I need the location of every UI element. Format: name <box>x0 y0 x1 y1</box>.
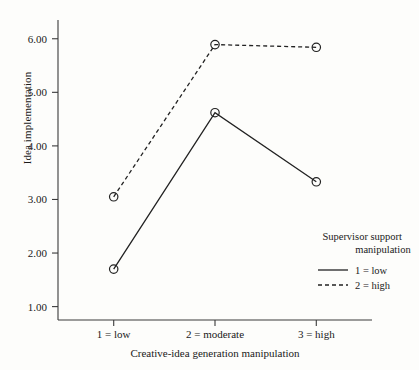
y-tick-label: 6.00 <box>28 33 48 45</box>
y-tick-label: 4.00 <box>28 140 48 152</box>
series-layer <box>110 40 321 273</box>
legend-title-line-2: manipulation <box>355 244 411 255</box>
legend-label-series-2-high: 2 = high <box>355 280 391 291</box>
x-tick-label: 3 = high <box>298 328 335 340</box>
y-tick-label: 1.00 <box>28 301 48 313</box>
y-tick-label: 2.00 <box>28 247 48 259</box>
chart-figure: Idea implementation Creative-idea genera… <box>0 0 419 370</box>
series-line-1 <box>114 113 317 269</box>
chart-legend: Supervisor support manipulation 1 = low … <box>318 231 411 291</box>
legend-title-line-1: Supervisor support <box>322 231 402 242</box>
y-tick-group: 1.002.003.004.005.006.00 <box>28 33 58 313</box>
x-tick-label: 1 = low <box>97 328 131 340</box>
plot-area: 1.002.003.004.005.006.00 1 = low2 = mode… <box>0 0 419 370</box>
x-tick-label: 2 = moderate <box>186 328 244 340</box>
legend-label-series-1-low: 1 = low <box>355 265 388 276</box>
y-tick-label: 5.00 <box>28 86 48 98</box>
y-tick-label: 3.00 <box>28 193 48 205</box>
series-line-2 <box>114 45 317 197</box>
x-tick-group: 1 = low2 = moderate3 = high <box>97 320 335 340</box>
